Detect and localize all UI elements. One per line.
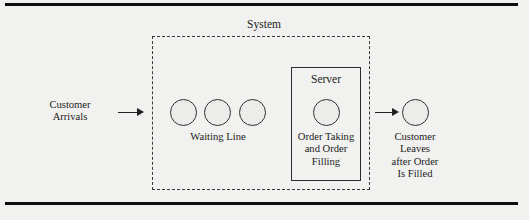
server-caption-line-3: Filling [312,156,340,167]
customer-leaves-line-2: Leaves [400,143,430,154]
departing-customer [402,99,429,126]
arrival-arrow-shaft [118,112,137,114]
server-caption-line-2: and Order [305,143,348,154]
server-caption-line-1: Order Taking [298,131,354,142]
queueing-system-diagram: System Customer Arrivals Waiting Line Se… [0,0,529,220]
customer-leaves-line-3: after Order [392,156,439,167]
server-label: Server [291,73,361,86]
customer-arrivals-label: Customer Arrivals [30,99,110,124]
arrival-arrow-icon [118,108,144,117]
departure-arrow-shaft [375,112,392,114]
departure-arrow-icon [375,108,399,117]
waiting-customer-2 [204,99,231,126]
customer-leaves-line-4: Is Filled [397,168,432,179]
customer-leaves-line-1: Customer [394,131,435,142]
in-service-customer [313,99,340,126]
waiting-customer-1 [170,99,197,126]
system-label: System [214,18,314,31]
arrival-arrow-head [137,108,144,116]
waiting-line-label: Waiting Line [170,131,266,143]
customer-arrivals-line-2: Arrivals [53,111,88,122]
top-rule [5,3,518,6]
bottom-rule [5,202,518,205]
waiting-customer-3 [239,99,266,126]
customer-leaves-label: Customer Leaves after Order Is Filled [380,131,450,181]
server-caption: Order Taking and Order Filling [288,131,364,168]
customer-arrivals-line-1: Customer [49,99,90,110]
departure-arrow-head [392,108,399,116]
